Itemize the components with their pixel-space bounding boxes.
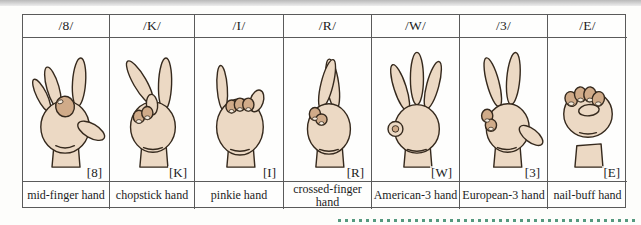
handshape-name-cell: mid-finger hand <box>23 182 110 209</box>
handshape-name-cell: crossed-finger hand <box>284 182 372 209</box>
bracket-label: [R] <box>346 166 365 179</box>
handshape-name: chopstick hand <box>116 189 188 202</box>
dashed-underline <box>338 219 639 222</box>
hand-i-icon <box>197 41 281 172</box>
bracket-label: [3] <box>524 166 541 179</box>
hand-k-icon <box>110 41 194 172</box>
phoneme-label: /I/ <box>233 18 246 34</box>
phoneme-header-cell: /K/ <box>110 15 195 38</box>
handshape-cell: [3] <box>460 38 548 182</box>
page-top-edge <box>0 0 641 6</box>
bracket-label: [I] <box>262 166 277 179</box>
hand-e-icon <box>548 41 627 172</box>
phoneme-label: /3/ <box>496 18 511 34</box>
handshape-chart-page: /8//K//I//R//W//3//E/[8][K][I][R][W][3][… <box>0 0 641 225</box>
phoneme-header-cell: /R/ <box>284 15 372 38</box>
phoneme-label: /E/ <box>579 18 596 34</box>
phoneme-label: /W/ <box>405 18 426 34</box>
phoneme-header-cell: /I/ <box>195 15 284 38</box>
handshape-cell: [E] <box>548 38 627 182</box>
phoneme-label: /K/ <box>143 18 161 34</box>
handshape-name-cell: chopstick hand <box>110 182 195 209</box>
handshape-cell: [R] <box>284 38 372 182</box>
bracket-label: [E] <box>602 166 621 179</box>
phoneme-header-cell: /E/ <box>548 15 627 38</box>
phoneme-label: /R/ <box>319 18 336 34</box>
handshape-name: mid-finger hand <box>27 189 105 202</box>
handshape-name: crossed-finger hand <box>285 183 370 208</box>
hand-r-icon <box>286 41 370 172</box>
phoneme-header-cell: /W/ <box>372 15 460 38</box>
bracket-label: [W] <box>430 166 453 179</box>
handshape-cell: [K] <box>110 38 195 182</box>
hand-3-icon <box>462 41 546 172</box>
handshape-cell: [W] <box>372 38 460 182</box>
handshape-name-cell: pinkie hand <box>195 182 284 209</box>
handshape-name-cell: European-3 hand <box>460 182 548 209</box>
handshape-table: /8//K//I//R//W//3//E/[8][K][I][R][W][3][… <box>22 14 626 208</box>
phoneme-header-cell: /8/ <box>23 15 110 38</box>
handshape-name-cell: nail-buff hand <box>548 182 627 209</box>
phoneme-label: /8/ <box>58 18 73 34</box>
bracket-label: [K] <box>168 166 188 179</box>
hand-w-icon <box>374 41 458 172</box>
handshape-name: American-3 hand <box>374 189 458 202</box>
handshape-name-cell: American-3 hand <box>372 182 460 209</box>
phoneme-header-cell: /3/ <box>460 15 548 38</box>
hand-8-icon <box>24 41 108 172</box>
handshape-name: European-3 hand <box>462 189 544 202</box>
handshape-name: pinkie hand <box>211 189 267 202</box>
handshape-name: nail-buff hand <box>553 189 621 202</box>
handshape-cell: [8] <box>23 38 110 182</box>
bracket-label: [8] <box>86 166 103 179</box>
handshape-cell: [I] <box>195 38 284 182</box>
